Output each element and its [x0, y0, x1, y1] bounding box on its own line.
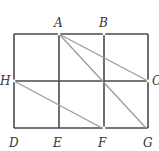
vertex-f [103, 127, 106, 130]
vertex-h [13, 80, 16, 83]
label-g: G [143, 136, 153, 150]
label-b: B [98, 16, 108, 30]
labels: A B C H D E F G [0, 16, 159, 150]
geometry-diagram: A B C H D E F G [0, 0, 159, 151]
vertex-c [147, 80, 150, 83]
label-h: H [0, 74, 11, 88]
label-f: F [97, 136, 107, 150]
vertex-a [58, 33, 61, 36]
label-d: D [8, 136, 19, 150]
label-a: A [53, 16, 63, 30]
label-c: C [152, 74, 159, 88]
segment-hf [14, 81, 102, 128]
vertex-b [103, 33, 106, 36]
label-e: E [52, 136, 62, 150]
grid [14, 34, 148, 128]
